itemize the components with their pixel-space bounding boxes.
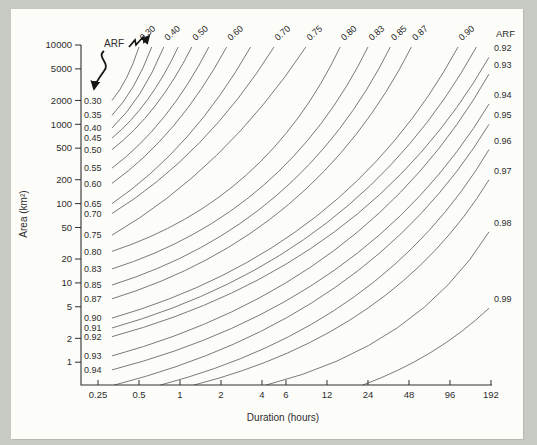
contour-left-label: 0.83 <box>84 264 102 274</box>
contour-left-label: 0.93 <box>84 351 102 361</box>
y-tick-label: 200 <box>56 174 72 185</box>
contour-top-label: 0.40 <box>162 23 182 42</box>
contour-line <box>112 47 227 183</box>
contour-left-label: 0.80 <box>84 247 102 257</box>
y-tick-label: 10000 <box>46 39 72 50</box>
x-tick-label: 2 <box>218 389 223 400</box>
x-tick-label: 96 <box>445 389 456 400</box>
contour-left-label: 0.60 <box>84 179 102 189</box>
x-tick-label: 1 <box>177 389 182 400</box>
x-tick-label: 48 <box>404 389 415 400</box>
y-tick-label: 5 <box>67 301 72 312</box>
y-tick-label: 2000 <box>51 95 72 106</box>
contour-top-label: 0.60 <box>225 23 245 42</box>
contour-top-label: 0.50 <box>190 23 210 42</box>
contour-left-label: 0.30 <box>84 96 102 106</box>
contour-line <box>112 47 340 251</box>
contour-top-label: 0.70 <box>273 23 293 42</box>
contour-right-label: 0.94 <box>494 90 512 100</box>
contour-left-label: 0.87 <box>84 294 102 304</box>
contour-left-label: 0.85 <box>84 280 102 290</box>
y-tick-label: 500 <box>56 142 72 153</box>
contour-line <box>112 47 411 299</box>
contour-line <box>112 47 139 100</box>
contour-line <box>112 47 476 328</box>
arf-annotation-label: ARF <box>104 38 124 49</box>
contour-right-label: 0.97 <box>494 166 512 176</box>
x-tick-label: 0.25 <box>89 389 108 400</box>
contour-left-label: 0.94 <box>84 365 102 375</box>
x-tick-label: 12 <box>322 389 333 400</box>
contour-line <box>112 47 178 138</box>
contour-left-label: 0.35 <box>84 110 102 120</box>
contour-right-label: 0.93 <box>494 60 512 70</box>
y-tick-label: 50 <box>61 222 72 233</box>
contour-right-label: 0.95 <box>494 110 512 120</box>
y-tick-label: 1 <box>67 356 72 367</box>
contour-right-label: 0.96 <box>494 136 512 146</box>
y-axis-title: Area (km²) <box>18 190 29 237</box>
y-tick-label: 5000 <box>51 63 72 74</box>
axis-lines <box>81 45 492 385</box>
x-axis-title: Duration (hours) <box>247 412 319 423</box>
contour-line <box>112 74 489 356</box>
contour-left-label: 0.55 <box>84 163 102 173</box>
contour-top-label: 0.85 <box>389 23 409 42</box>
contour-left-label: 0.45 <box>84 133 102 143</box>
x-tick-label: 6 <box>283 389 288 400</box>
contour-line <box>161 150 489 385</box>
contour-top-label: 0.80 <box>339 23 359 42</box>
contour-left-label: 0.65 <box>84 199 102 209</box>
contour-top-label: 0.75 <box>305 23 325 42</box>
y-tick-label: 100 <box>56 198 72 209</box>
y-tick-label: 10 <box>61 277 72 288</box>
contour-left-label: 0.92 <box>84 332 102 342</box>
contour-left-label: 0.40 <box>84 123 102 133</box>
contour-line <box>112 47 251 204</box>
contour-right-label: 0.98 <box>494 218 512 228</box>
contour-line <box>112 47 306 235</box>
y-tick-label: 1000 <box>51 119 72 130</box>
arf-contour-chart: 0.300.300.350.400.400.450.500.500.550.60… <box>0 0 537 445</box>
contour-top-label: 0.87 <box>410 23 430 42</box>
page-background: 0.300.300.350.400.400.450.500.500.550.60… <box>0 0 537 445</box>
contour-line <box>112 47 209 168</box>
arf-right-header: ARF <box>496 28 515 39</box>
x-tick-label: 0.5 <box>132 389 145 400</box>
contour-right-label: 0.92 <box>494 43 512 53</box>
arf-annotation-arrow-down-icon <box>94 51 106 89</box>
y-tick-label: 2 <box>67 333 72 344</box>
contour-line <box>112 47 192 150</box>
contour-line <box>363 308 489 385</box>
contour-left-label: 0.90 <box>84 313 102 323</box>
x-tick-label: 24 <box>363 389 374 400</box>
contour-left-label: 0.50 <box>84 145 102 155</box>
contour-right-label: 0.99 <box>494 294 512 304</box>
contour-top-label: 0.90 <box>457 23 477 42</box>
contour-left-label: 0.75 <box>84 230 102 240</box>
contour-line <box>112 47 458 318</box>
y-tick-label: 20 <box>61 253 72 264</box>
x-tick-label: 4 <box>259 389 264 400</box>
x-tick-label: 192 <box>483 389 499 400</box>
contour-top-label: 0.83 <box>367 23 387 42</box>
contour-left-label: 0.70 <box>84 209 102 219</box>
